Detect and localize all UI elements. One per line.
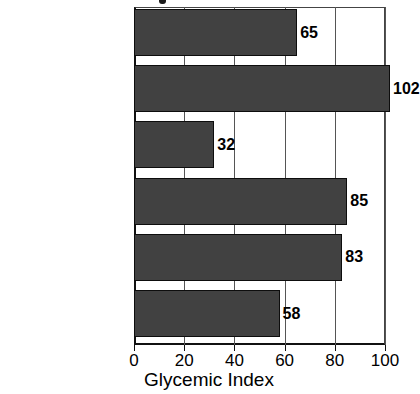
bar-value-label: 85	[350, 193, 368, 209]
bar-value-label: 65	[300, 25, 318, 41]
bar	[134, 65, 390, 112]
bar-value-label: 102	[393, 81, 420, 97]
tick-label-60: 60	[275, 352, 294, 369]
bar	[134, 234, 342, 281]
tick-label-40: 40	[225, 352, 244, 369]
bar-value-label: 83	[345, 249, 363, 265]
gridline-60	[285, 7, 286, 345]
tick-label-0: 0	[129, 352, 138, 369]
bar	[134, 9, 297, 56]
bar	[134, 290, 280, 337]
tick-label-100: 100	[371, 352, 399, 369]
bar-value-label: 58	[283, 306, 301, 322]
gridline-80	[335, 7, 336, 345]
bar	[134, 121, 214, 168]
tick-label-20: 20	[175, 352, 194, 369]
tick-label-80: 80	[325, 352, 344, 369]
cropped-title-artifact	[159, 0, 166, 4]
bar-value-label: 32	[217, 137, 235, 153]
x-axis-title: Glycemic Index	[0, 370, 418, 389]
bar	[134, 178, 347, 225]
gridline-100	[385, 7, 386, 345]
